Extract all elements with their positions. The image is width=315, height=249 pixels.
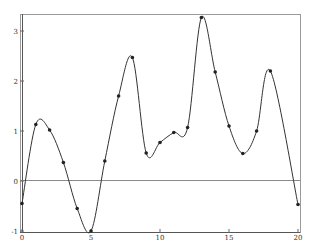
y-tick-label: 3: [14, 28, 18, 36]
data-point: [144, 151, 148, 155]
line-chart: -10123 05101520: [0, 0, 315, 249]
x-tick-label: 5: [89, 234, 93, 242]
data-point: [255, 129, 259, 133]
x-tick-label: 15: [225, 234, 234, 242]
data-point: [296, 203, 300, 207]
data-point: [186, 126, 190, 130]
y-tick-label: 1: [14, 128, 18, 136]
data-point: [103, 159, 107, 163]
data-point: [62, 161, 66, 165]
y-tick-label: -1: [11, 228, 18, 236]
data-point: [227, 124, 231, 128]
data-point: [89, 229, 93, 233]
data-point: [117, 94, 121, 98]
y-tick-label: 0: [14, 178, 18, 186]
data-point: [158, 141, 162, 145]
data-point: [200, 16, 204, 20]
data-point: [131, 56, 135, 60]
x-tick-label: 10: [156, 234, 165, 242]
y-tick-label: 2: [14, 78, 18, 86]
x-tick-label: 0: [20, 234, 24, 242]
data-curve: [22, 16, 298, 233]
x-ticks: 05101520: [20, 229, 303, 242]
data-point: [269, 69, 273, 73]
data-point: [213, 70, 217, 74]
data-point: [20, 202, 24, 206]
data-point: [172, 131, 176, 135]
data-point: [241, 152, 245, 156]
data-point: [34, 123, 38, 127]
x-tick-label: 20: [294, 234, 303, 242]
data-point: [48, 128, 52, 132]
data-point: [75, 207, 79, 211]
